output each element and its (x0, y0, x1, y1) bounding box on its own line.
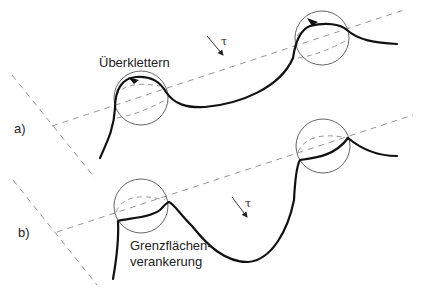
panel-b-tau-symbol: τ (245, 197, 251, 210)
panel-a-label: a) (14, 121, 26, 136)
panel-a-dislocation-line (100, 24, 397, 158)
panel-b-annotation-line-1: Grenzflächen- (130, 238, 212, 253)
dislocation-diagram: τ a) Überklettern τ b) Grenzflächen- ver… (0, 0, 424, 295)
panel-b-label: b) (18, 225, 30, 240)
panel-b: τ b) Grenzflächen- verankerung (13, 115, 413, 285)
panel-b-annotation-line-2: verankerung (130, 254, 202, 269)
panel-b-particle-1 (114, 179, 168, 233)
panel-a: τ a) Überklettern (12, 9, 407, 178)
panel-a-annotation-ueberklettern: Überklettern (99, 55, 170, 70)
panel-a-particle-1 (114, 71, 168, 125)
panel-a-tau-symbol: τ (221, 35, 227, 48)
panel-a-particle-2 (295, 11, 349, 65)
